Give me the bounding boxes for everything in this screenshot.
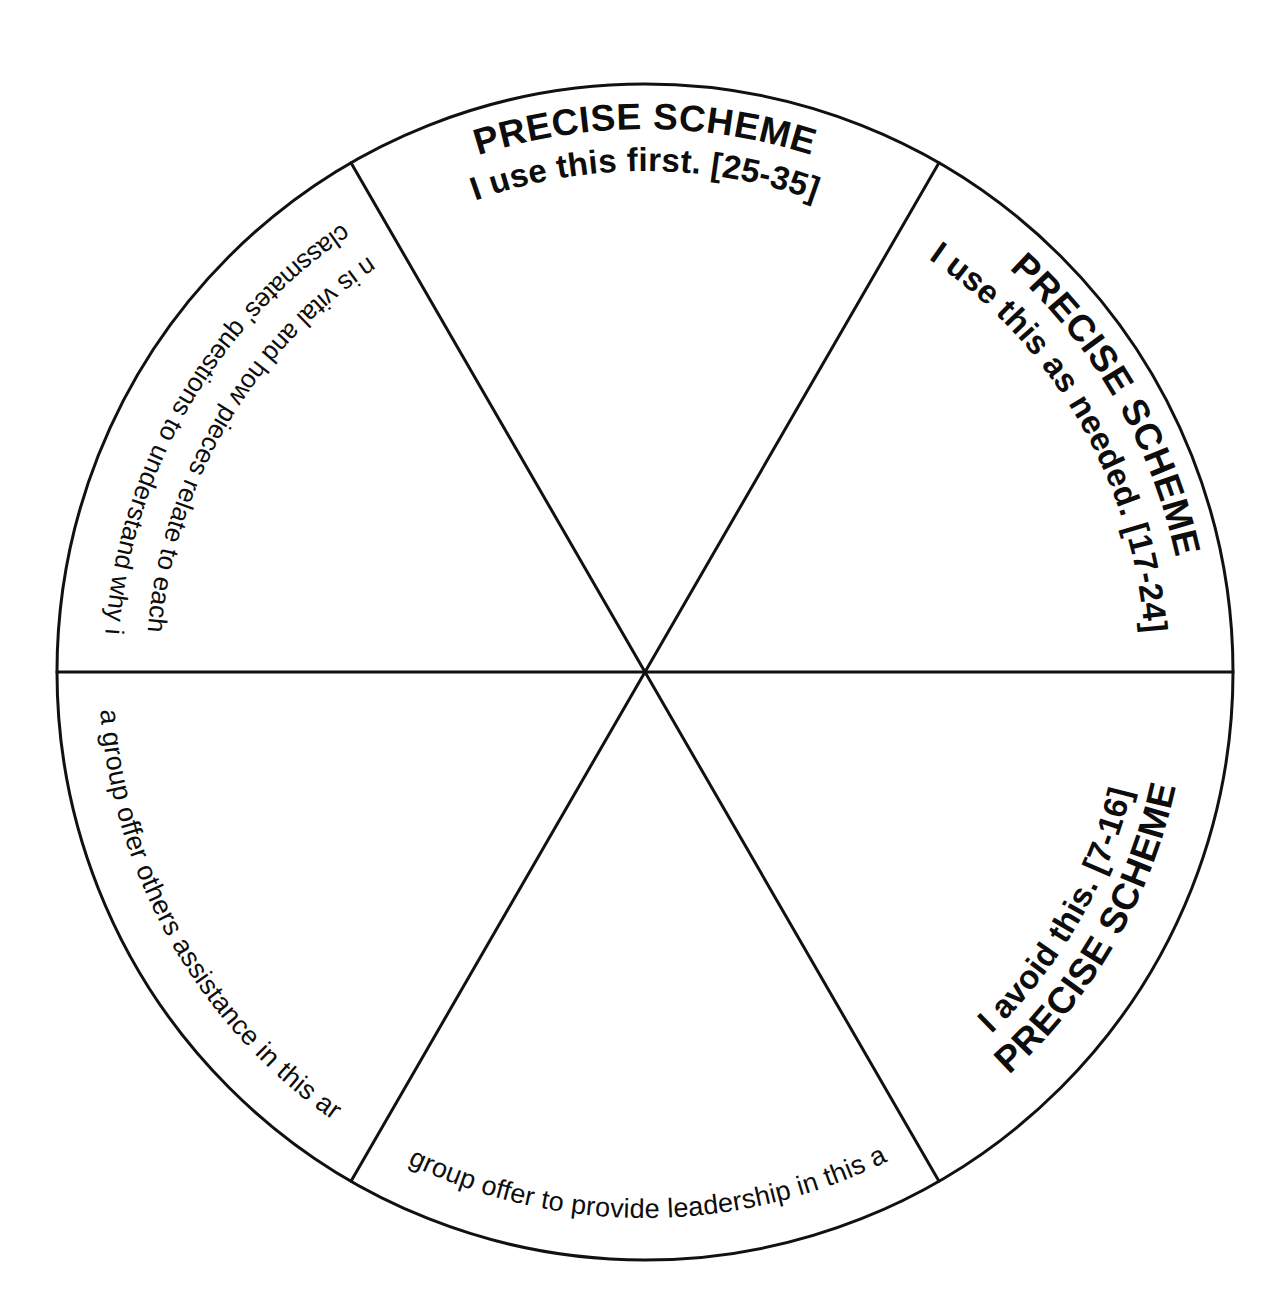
wheel-diagram: PRECISE SCHEME I use this first. [25-35]… — [0, 0, 1281, 1316]
precise-scheme-wheel-svg: PRECISE SCHEME I use this first. [25-35]… — [0, 0, 1281, 1316]
